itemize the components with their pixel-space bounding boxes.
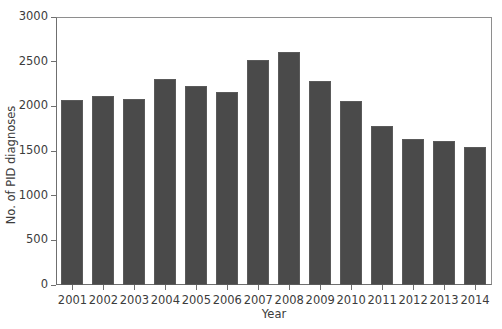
x-axis-title: Year: [56, 307, 492, 321]
x-tick-label: 2008: [275, 293, 304, 308]
bar-2002: [92, 96, 114, 285]
y-tick-label: 1500: [19, 143, 48, 158]
x-tick-label: 2002: [89, 293, 118, 308]
bar-2004: [154, 79, 176, 285]
bar-2001: [61, 100, 83, 285]
bar-2011: [371, 126, 393, 285]
bar-2013: [433, 141, 455, 285]
x-tick-label: 2009: [306, 293, 335, 308]
x-tick-mark: [413, 285, 414, 290]
x-tick-mark: [72, 285, 73, 290]
x-tick-label: 2012: [398, 293, 427, 308]
x-tick-label: 2003: [120, 293, 149, 308]
x-tick-label: 2010: [337, 293, 366, 308]
y-tick-mark: [51, 240, 56, 241]
bars-layer: [56, 17, 492, 285]
x-tick-mark: [165, 285, 166, 290]
y-tick-label: 3000: [19, 9, 48, 24]
bar-2010: [340, 101, 362, 285]
y-tick-label: 2000: [19, 98, 48, 113]
y-tick-label: 1000: [19, 188, 48, 203]
x-tick-mark: [351, 285, 352, 290]
y-tick-mark: [51, 195, 56, 196]
y-tick-label: 500: [26, 232, 48, 247]
bar-2012: [402, 139, 424, 285]
x-tick-mark: [382, 285, 383, 290]
bar-2014: [464, 147, 486, 285]
y-tick-mark: [51, 17, 56, 18]
bar-2009: [309, 81, 331, 285]
x-tick-mark: [196, 285, 197, 290]
bar-chart: 050010001500200025003000 200120022003200…: [0, 0, 502, 329]
y-tick-mark: [51, 106, 56, 107]
x-tick-label: 2004: [151, 293, 180, 308]
y-axis-title-label: No. of PID diagnoses: [4, 105, 18, 224]
x-tick-mark: [475, 285, 476, 290]
x-tick-mark: [444, 285, 445, 290]
bar-2008: [278, 52, 300, 285]
x-tick-label: 2014: [460, 293, 489, 308]
y-tick-mark: [51, 151, 56, 152]
bar-2007: [247, 60, 269, 285]
bar-2005: [185, 86, 207, 285]
x-tick-label: 2007: [244, 293, 273, 308]
x-tick-mark: [289, 285, 290, 290]
x-tick-mark: [227, 285, 228, 290]
bar-2006: [216, 92, 238, 285]
x-tick-label: 2006: [213, 293, 242, 308]
x-tick-label: 2005: [182, 293, 211, 308]
y-tick-mark: [51, 61, 56, 62]
x-tick-label: 2001: [58, 293, 87, 308]
x-tick-mark: [320, 285, 321, 290]
x-tick-mark: [258, 285, 259, 290]
x-tick-mark: [103, 285, 104, 290]
y-tick-label: 2500: [19, 54, 48, 69]
y-tick-label: 0: [41, 277, 48, 292]
bar-2003: [123, 99, 145, 285]
x-tick-label: 2013: [429, 293, 458, 308]
x-tick-label: 2011: [368, 293, 397, 308]
y-axis-title: No. of PID diagnoses: [2, 0, 20, 329]
x-tick-mark: [134, 285, 135, 290]
